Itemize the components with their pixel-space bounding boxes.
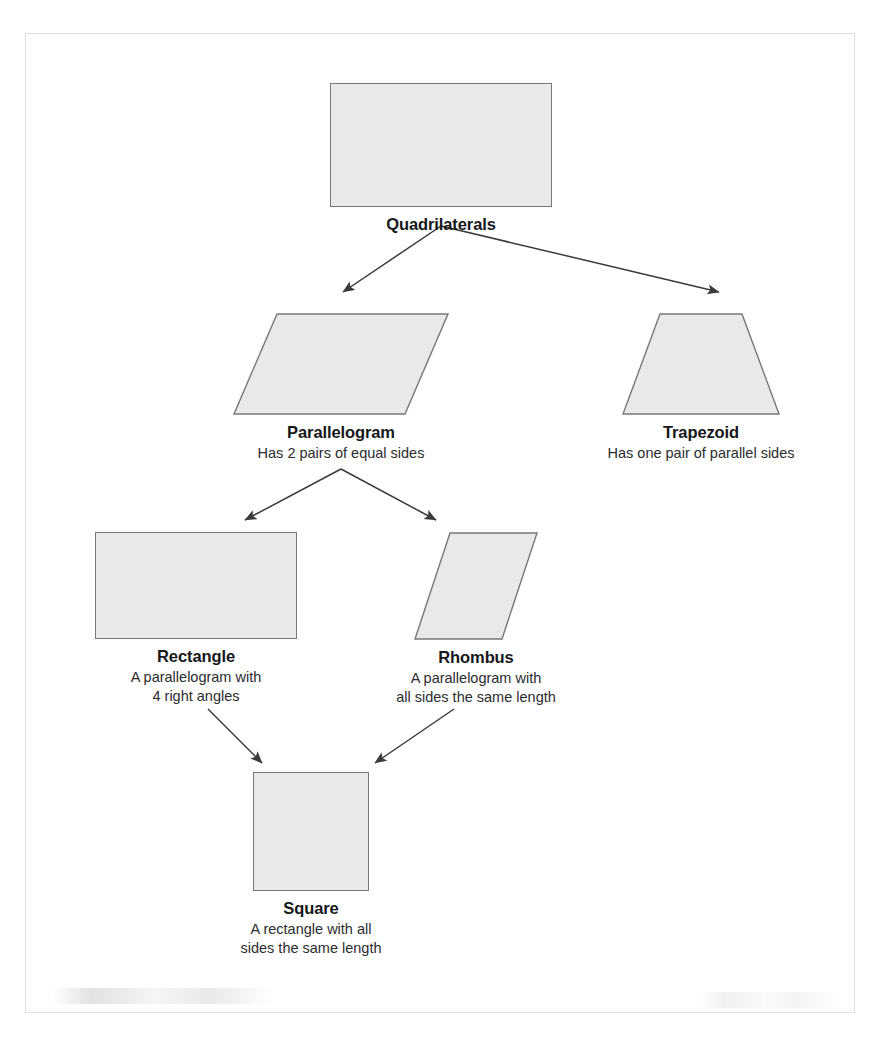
node-rhombus[interactable]: Rhombus A parallelogram with all sides t… bbox=[351, 532, 601, 707]
node-trapezoid[interactable]: Trapezoid Has one pair of parallel sides bbox=[566, 313, 836, 463]
node-rectangle[interactable]: Rectangle A parallelogram with 4 right a… bbox=[71, 532, 321, 706]
node-title: Parallelogram bbox=[206, 422, 476, 442]
node-square[interactable]: Square A rectangle with all sides the sa… bbox=[186, 772, 436, 958]
shape-square-square bbox=[253, 772, 369, 891]
scan-artifact-smudge-right bbox=[700, 992, 840, 1008]
shape-rhombus-rhombus bbox=[414, 532, 538, 640]
shape-trapezoid-trapezoid bbox=[622, 313, 780, 415]
node-title: Rectangle bbox=[71, 646, 321, 666]
shape-rectangle-rectangle bbox=[95, 532, 297, 639]
shape-parallelogram-parallelogram bbox=[233, 313, 449, 415]
node-description: Has one pair of parallel sides bbox=[566, 444, 836, 463]
node-description: A rectangle with all sides the same leng… bbox=[186, 920, 436, 958]
shape-rectangle-quadrilaterals bbox=[330, 83, 552, 207]
page-root: Quadrilaterals Parallelogram Has 2 pairs… bbox=[0, 0, 888, 1043]
edge-rectangle-square bbox=[208, 709, 262, 763]
edge-rhombus-square bbox=[375, 709, 454, 763]
node-description: A parallelogram with all sides the same … bbox=[351, 669, 601, 707]
edge-parallelogram-rhombus bbox=[341, 469, 436, 520]
cut-off-header-text bbox=[22, 0, 662, 3]
node-title: Rhombus bbox=[351, 647, 601, 667]
node-quadrilaterals[interactable]: Quadrilaterals bbox=[316, 83, 566, 236]
node-title: Square bbox=[186, 898, 436, 918]
node-description: A parallelogram with 4 right angles bbox=[71, 668, 321, 706]
node-title: Trapezoid bbox=[566, 422, 836, 442]
node-description: Has 2 pairs of equal sides bbox=[206, 444, 476, 463]
scan-artifact-smudge bbox=[52, 988, 272, 1004]
diagram-frame: Quadrilaterals Parallelogram Has 2 pairs… bbox=[25, 33, 855, 1013]
node-parallelogram[interactable]: Parallelogram Has 2 pairs of equal sides bbox=[206, 313, 476, 463]
edge-parallelogram-rectangle bbox=[245, 469, 341, 520]
node-title: Quadrilaterals bbox=[316, 214, 566, 234]
